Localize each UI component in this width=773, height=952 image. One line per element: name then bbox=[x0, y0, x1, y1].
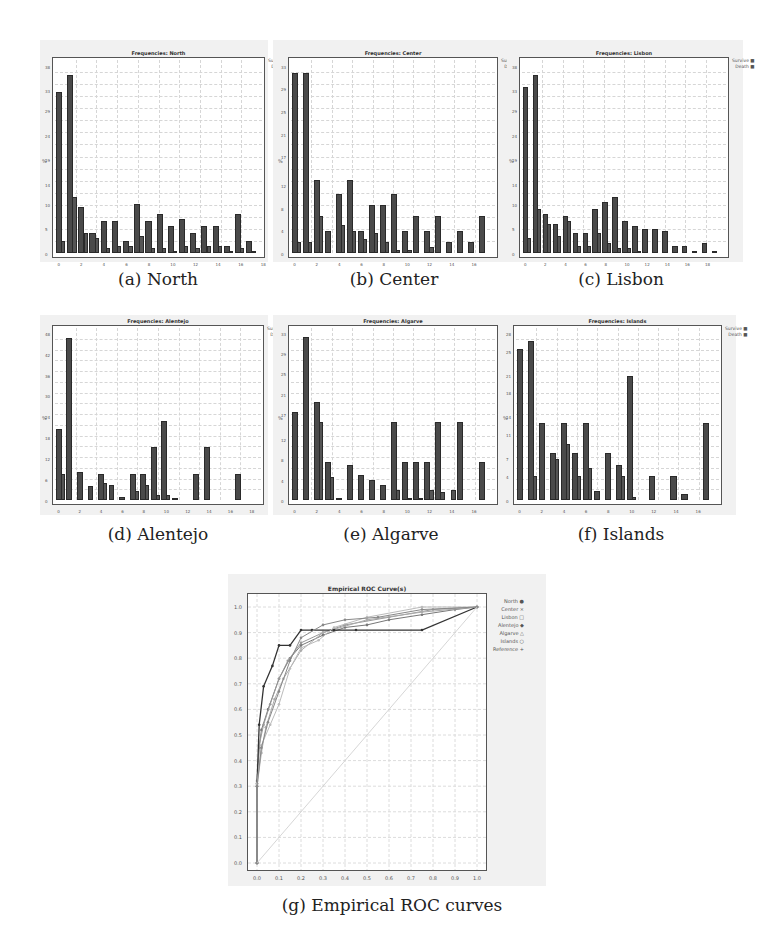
x-tick-label: 18 bbox=[705, 262, 710, 267]
grid-line bbox=[522, 144, 726, 145]
bar-survive bbox=[555, 459, 559, 500]
y-tick-label: 4 bbox=[281, 479, 284, 484]
roc-plot bbox=[247, 593, 487, 871]
x-tick-label: 6 bbox=[360, 262, 363, 267]
x-tick-label: 0 bbox=[293, 509, 296, 514]
chart-panel-f: Frequencies: IslandsSurvive ■Death ■%024… bbox=[500, 315, 736, 515]
bar-death bbox=[56, 92, 62, 253]
y-tick-label: 6 bbox=[45, 478, 48, 483]
x-tick-label: 6 bbox=[585, 509, 588, 514]
x-tick-label: 2 bbox=[79, 509, 82, 514]
bar-survive bbox=[84, 233, 88, 253]
x-tick-label: 2 bbox=[544, 262, 547, 267]
grid-line bbox=[516, 382, 719, 383]
bar-survive bbox=[139, 236, 143, 253]
bar-survive bbox=[151, 248, 155, 253]
y-tick-label: 14 bbox=[506, 415, 511, 420]
bar-survive bbox=[229, 251, 233, 253]
bar-survive bbox=[218, 246, 222, 253]
y-tick-label: 17 bbox=[281, 413, 286, 418]
bar-survive bbox=[135, 491, 139, 500]
plot-inner bbox=[55, 328, 261, 500]
x-tick-label: 0 bbox=[524, 262, 527, 267]
x-tick-label: 6 bbox=[360, 509, 363, 514]
chart-title: Empirical ROC Curve(s) bbox=[328, 585, 406, 592]
caption-f: (f) Islands bbox=[578, 524, 665, 544]
x-tick-label: 6 bbox=[121, 509, 124, 514]
x-tick-label: 0 bbox=[293, 262, 296, 267]
roc-legend: North ●Center ×Lisbon □Alentejo ◆Algarve… bbox=[493, 597, 524, 653]
bar-death bbox=[303, 337, 309, 500]
bar-death bbox=[468, 242, 474, 253]
grid-line bbox=[55, 489, 261, 490]
y-tick-label: 33 bbox=[281, 332, 286, 337]
bar-survive bbox=[61, 241, 65, 253]
x-tick-label: 18 bbox=[249, 509, 254, 514]
bar-survive bbox=[637, 251, 641, 253]
y-tick-label: 21 bbox=[506, 374, 511, 379]
bar-death bbox=[292, 73, 298, 253]
y-tick-label: 33 bbox=[281, 65, 286, 70]
bar-survive bbox=[407, 498, 411, 501]
bar-survive bbox=[632, 497, 636, 500]
x-tick-label: 0.1 bbox=[275, 875, 283, 881]
x-tick-label: 0 bbox=[57, 262, 60, 267]
bar-survive bbox=[429, 490, 433, 500]
y-tick-label: 0 bbox=[281, 252, 284, 257]
grid-line bbox=[55, 108, 262, 109]
x-tick-label: 4 bbox=[563, 509, 566, 514]
grid-line bbox=[522, 217, 726, 218]
y-tick-label: 38 bbox=[512, 65, 517, 70]
plot-area bbox=[288, 325, 498, 505]
y-tick-label: 8 bbox=[281, 458, 284, 463]
roc-point bbox=[366, 624, 369, 627]
roc-point bbox=[271, 665, 274, 668]
grid-line bbox=[55, 350, 261, 351]
x-tick-label: 14 bbox=[449, 262, 454, 267]
y-tick-label: 0.4 bbox=[234, 758, 242, 764]
bar-survive bbox=[566, 444, 570, 500]
legend-death: Death ■ bbox=[725, 332, 748, 338]
y-tick-label: 36 bbox=[45, 374, 50, 379]
plot-area bbox=[52, 57, 265, 258]
y-tick-label: 5 bbox=[512, 227, 515, 232]
x-tick-label: 4 bbox=[100, 509, 103, 514]
caption-e: (e) Algarve bbox=[343, 524, 438, 544]
bar-death bbox=[292, 412, 298, 500]
roc-point bbox=[421, 608, 424, 611]
bar-survive bbox=[547, 224, 551, 253]
bar-death bbox=[702, 243, 707, 253]
chart-title: Frequencies: Alentejo bbox=[127, 318, 188, 324]
roc-point bbox=[300, 642, 303, 645]
x-tick-label: 4 bbox=[338, 262, 341, 267]
bar-survive bbox=[184, 246, 188, 253]
x-tick-label: 14 bbox=[207, 509, 212, 514]
roc-point bbox=[333, 626, 336, 629]
legend-item-center: Center × bbox=[493, 605, 524, 613]
y-tick-label: 25 bbox=[506, 350, 511, 355]
roc-point bbox=[289, 667, 292, 670]
bar-survive bbox=[166, 495, 170, 500]
grid-line bbox=[522, 120, 726, 121]
x-tick-label: 0.5 bbox=[363, 875, 371, 881]
plot-area bbox=[52, 325, 264, 505]
roc-point bbox=[322, 624, 325, 627]
chart-title: Frequencies: Algarve bbox=[363, 318, 422, 324]
bar-death bbox=[605, 453, 611, 500]
bar-survive bbox=[308, 242, 312, 253]
bar-survive bbox=[319, 422, 323, 500]
bar-death bbox=[413, 216, 419, 253]
plot-inner bbox=[522, 60, 726, 253]
grid-line bbox=[522, 84, 726, 85]
y-tick-label: 7 bbox=[506, 457, 509, 462]
y-tick-label: 14 bbox=[512, 183, 517, 188]
y-tick-label: 33 bbox=[45, 89, 50, 94]
legend-item-reference: Reference + bbox=[493, 645, 524, 653]
x-tick-label: 2 bbox=[540, 509, 543, 514]
grid-line bbox=[516, 393, 719, 394]
bar-death bbox=[681, 494, 687, 500]
bar-death bbox=[204, 447, 210, 500]
chart-panel-c: Frequencies: LisbonSurvive ■Death ■%0246… bbox=[507, 40, 743, 262]
y-tick-label: 29 bbox=[45, 109, 50, 114]
bar-death bbox=[682, 246, 687, 253]
